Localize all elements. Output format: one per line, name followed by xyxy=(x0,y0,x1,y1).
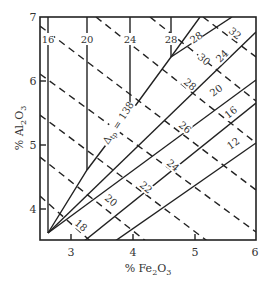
x-tick-4: 4 xyxy=(130,246,137,259)
x-tick-5: 5 xyxy=(192,246,199,259)
label-vertical-28: 28 xyxy=(165,34,178,45)
x-axis-title: % Fe2O3 xyxy=(125,262,172,277)
label-dashed-18: 18 xyxy=(73,217,90,234)
y-tick-5: 5 xyxy=(30,139,37,152)
dashed-line-24 xyxy=(40,74,256,232)
label-solid-24: 24 xyxy=(214,48,231,65)
x-tick-3: 3 xyxy=(68,246,75,259)
solid-line-24 xyxy=(48,32,256,233)
label-dashed-22: 22 xyxy=(138,179,155,196)
label-dashed-32: 32 xyxy=(227,25,244,42)
y-tick-4: 4 xyxy=(30,203,37,216)
label-vertical-20: 20 xyxy=(81,34,94,45)
delta-value: = 138 xyxy=(108,100,136,134)
label-vertical-16: 16 xyxy=(42,34,55,45)
label-dashed-26: 26 xyxy=(177,119,194,136)
y-axis-title: % Al2O3 xyxy=(13,106,28,151)
solid-line-12 xyxy=(108,143,256,246)
y-tick-7: 7 xyxy=(30,11,37,24)
label-solid-28: 28 xyxy=(188,29,205,45)
label-solid-12: 12 xyxy=(225,135,242,151)
ternary-modulus-chart: 16 20 24 28 Δtp = 138 28 24 20 16 xyxy=(0,0,270,287)
dashed-line-32 xyxy=(203,17,256,57)
solid-line-16 xyxy=(78,103,256,246)
y-tick-6: 6 xyxy=(30,75,37,88)
label-solid-20: 20 xyxy=(208,82,225,98)
label-vertical-24: 24 xyxy=(124,34,137,45)
label-dashed-24: 24 xyxy=(165,157,182,174)
dashed-line-20 xyxy=(40,157,152,246)
x-tick-6: 6 xyxy=(252,246,259,259)
svg-text:Δtp = 138: Δtp = 138 xyxy=(100,100,137,148)
label-dashed-20: 20 xyxy=(103,192,120,209)
